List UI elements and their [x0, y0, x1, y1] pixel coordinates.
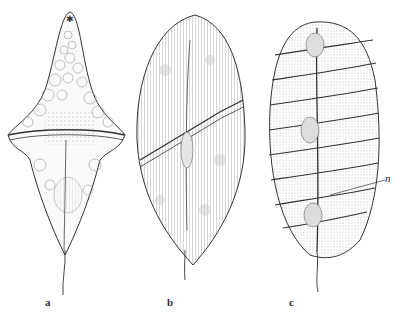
panel-a-label: a: [45, 296, 51, 308]
panel-b-drawing: [125, 0, 260, 300]
figure: ✱ a b: [0, 0, 400, 317]
panel-c-label: c: [289, 296, 294, 308]
panel-c-drawing: [255, 0, 400, 300]
panel-a-drawing: ✱: [0, 0, 135, 300]
panel-b-label: b: [167, 296, 173, 308]
svg-text:✱: ✱: [66, 14, 74, 24]
annotation-n: n: [385, 172, 391, 184]
